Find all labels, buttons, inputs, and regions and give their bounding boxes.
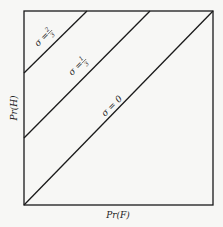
svg-text:σ =: σ = xyxy=(66,59,85,78)
label-sigma-1-3: σ = 1 3 xyxy=(65,53,91,79)
sigma-diagram: σ = 2 3 σ = 1 3 σ = 0 Pr(F) Pr(H) xyxy=(0,0,223,227)
label-sigma-2-3: σ = 2 3 xyxy=(31,24,57,50)
line-sigma-0 xyxy=(24,11,213,205)
x-axis-label: Pr(F) xyxy=(105,210,130,220)
y-axis-label: Pr(H) xyxy=(9,95,19,122)
